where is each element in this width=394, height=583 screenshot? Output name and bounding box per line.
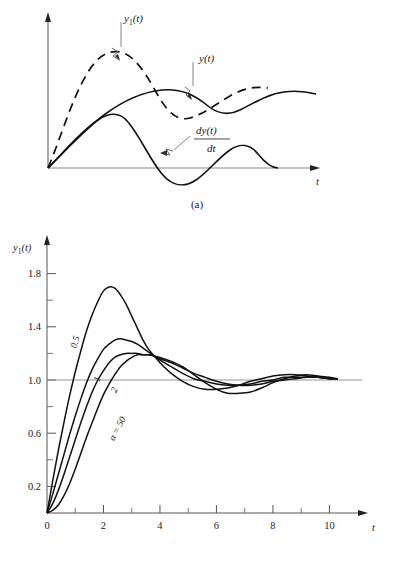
curve-label-0.5: 0.5 (69, 335, 82, 350)
chart-x-axis-title: t (372, 522, 376, 533)
figure-b: 0.20.61.01.41.8 0246810 0.512α = 50 y1(t… (0, 225, 394, 583)
curve-label-a=50: α = 50 (107, 415, 128, 443)
figure-a-y-axis (45, 12, 51, 168)
y-tick-label: 1.0 (28, 375, 41, 386)
y-tick-label: 0.2 (28, 481, 41, 492)
x-tick-label: 10 (324, 520, 335, 531)
curve-dydt-solid (48, 114, 278, 185)
figure-a: t y1(t) y(t) dy(t) (0, 0, 394, 225)
annotation-y1-label: y1(t) (123, 12, 143, 27)
y-tick-label: 1.8 (28, 268, 41, 279)
annotation-dydt-label: dy(t) dt (194, 124, 230, 154)
figure-a-svg: t y1(t) y(t) dy(t) (0, 0, 394, 200)
figure-b-chart: 0.20.61.01.41.8 0246810 0.512α = 50 y1(t… (0, 225, 394, 565)
curve-label-2: 2 (109, 386, 120, 394)
dydt-numerator: dy(t) (196, 124, 217, 137)
figure-a-x-axis-label: t (316, 176, 320, 187)
figure-a-x-axis (48, 165, 320, 171)
x-tick-label: 0 (44, 520, 49, 531)
annotation-y1-leader (112, 22, 121, 61)
curve-y1-dashed (48, 52, 268, 168)
annotation-y-label: y(t) (198, 52, 215, 65)
chart-y-axis (44, 235, 50, 513)
figure-a-caption: (a) (0, 198, 394, 210)
chart-y-axis-title: y1(t) (12, 242, 32, 256)
dydt-denominator: dt (207, 142, 217, 154)
chart-x-axis (47, 510, 368, 516)
annotation-y-leader (185, 62, 193, 100)
y-tick-label: 1.4 (28, 321, 42, 332)
chart-x-ticks: 0246810 (44, 505, 334, 531)
curve-y-solid (48, 90, 316, 168)
chart-curve-labels: 0.512α = 50 (69, 335, 128, 443)
annotation-dydt-leader (160, 136, 190, 156)
chart-curves (47, 287, 338, 513)
curve-0.5 (47, 287, 338, 513)
y-tick-label: 0.6 (28, 428, 41, 439)
x-tick-label: 6 (214, 520, 219, 531)
curve-label-1: 1 (92, 375, 103, 383)
x-tick-label: 2 (101, 520, 106, 531)
x-tick-label: 4 (157, 520, 163, 531)
x-tick-label: 8 (270, 520, 275, 531)
